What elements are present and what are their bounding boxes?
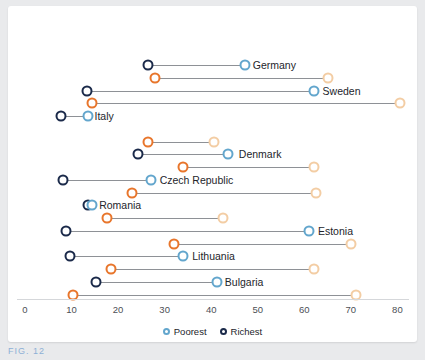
data-point-poorest[interactable] [308,264,319,275]
data-point-richest[interactable] [133,149,144,160]
connector-line [155,78,327,79]
x-axis-line [17,299,409,300]
country-label: Lithuania [192,250,235,262]
data-point-richest[interactable] [106,264,117,275]
country-label: Czech Republic [160,174,234,186]
x-tick-label: 80 [392,304,403,315]
chart-plot-area: GermanySwedenItalyDenmarkCzech RepublicR… [8,6,417,342]
x-tick-label: 10 [66,304,77,315]
connector-line [107,218,223,219]
data-point-poorest[interactable] [223,149,234,160]
connector-line [148,142,213,143]
data-point-poorest[interactable] [308,162,319,173]
data-point-poorest[interactable] [394,98,405,109]
connector-line [183,167,313,168]
data-point-poorest[interactable] [145,174,156,185]
data-point-richest[interactable] [55,111,66,122]
connector-line [63,180,151,181]
data-point-richest[interactable] [91,276,102,287]
data-point-richest[interactable] [178,162,189,173]
connector-line [148,65,245,66]
x-tick-label: 70 [346,304,357,315]
data-point-richest[interactable] [58,174,69,185]
country-label: Italy [95,110,114,122]
data-point-richest[interactable] [65,251,76,262]
connector-line [174,244,351,245]
data-point-richest[interactable] [101,213,112,224]
connector-line [92,103,400,104]
legend-item-richest[interactable]: Richest [220,326,263,337]
data-point-poorest[interactable] [208,136,219,147]
connector-line [87,91,314,92]
connector-line [138,154,228,155]
data-point-poorest[interactable] [212,276,223,287]
x-tick-label: 30 [159,304,170,315]
data-point-richest[interactable] [143,60,154,71]
data-point-richest[interactable] [87,98,98,109]
data-point-poorest[interactable] [87,200,98,211]
data-point-richest[interactable] [127,187,138,198]
country-label: Germany [253,59,296,71]
figure-caption: FIG. 12 [8,346,45,354]
chart-screenshot: GermanySwedenItalyDenmarkCzech RepublicR… [0,0,425,360]
connector-line [132,193,316,194]
data-point-richest[interactable] [150,72,161,83]
data-point-poorest[interactable] [240,60,251,71]
connector-line [111,269,313,270]
country-label: Sweden [323,85,361,97]
data-point-poorest[interactable] [311,187,322,198]
data-point-poorest[interactable] [82,111,93,122]
poorest-marker-icon [163,328,170,335]
data-point-richest[interactable] [81,85,92,96]
chart-card: GermanySwedenItalyDenmarkCzech RepublicR… [8,6,417,342]
country-label: Denmark [239,148,282,160]
data-point-poorest[interactable] [308,85,319,96]
data-point-poorest[interactable] [345,238,356,249]
x-tick-label: 50 [252,304,263,315]
data-point-richest[interactable] [143,136,154,147]
data-point-poorest[interactable] [303,225,314,236]
country-label: Estonia [318,225,353,237]
data-point-richest[interactable] [60,225,71,236]
x-tick-label: 20 [113,304,124,315]
chart-legend: Poorest Richest [8,326,417,337]
legend-label-richest: Richest [231,326,263,337]
data-point-richest[interactable] [168,238,179,249]
connector-line [96,282,217,283]
data-point-poorest[interactable] [322,72,333,83]
connector-line [66,231,309,232]
x-tick-label: 60 [299,304,310,315]
x-tick-label: 40 [206,304,217,315]
legend-item-poorest[interactable]: Poorest [163,326,207,337]
data-point-poorest[interactable] [178,251,189,262]
country-label: Bulgaria [225,276,264,288]
connector-line [70,256,183,257]
country-label: Romania [99,199,141,211]
connector-line [73,295,356,296]
x-tick-label: 0 [22,304,27,315]
legend-label-poorest: Poorest [174,326,207,337]
data-point-poorest[interactable] [218,213,229,224]
richest-marker-icon [220,328,227,335]
